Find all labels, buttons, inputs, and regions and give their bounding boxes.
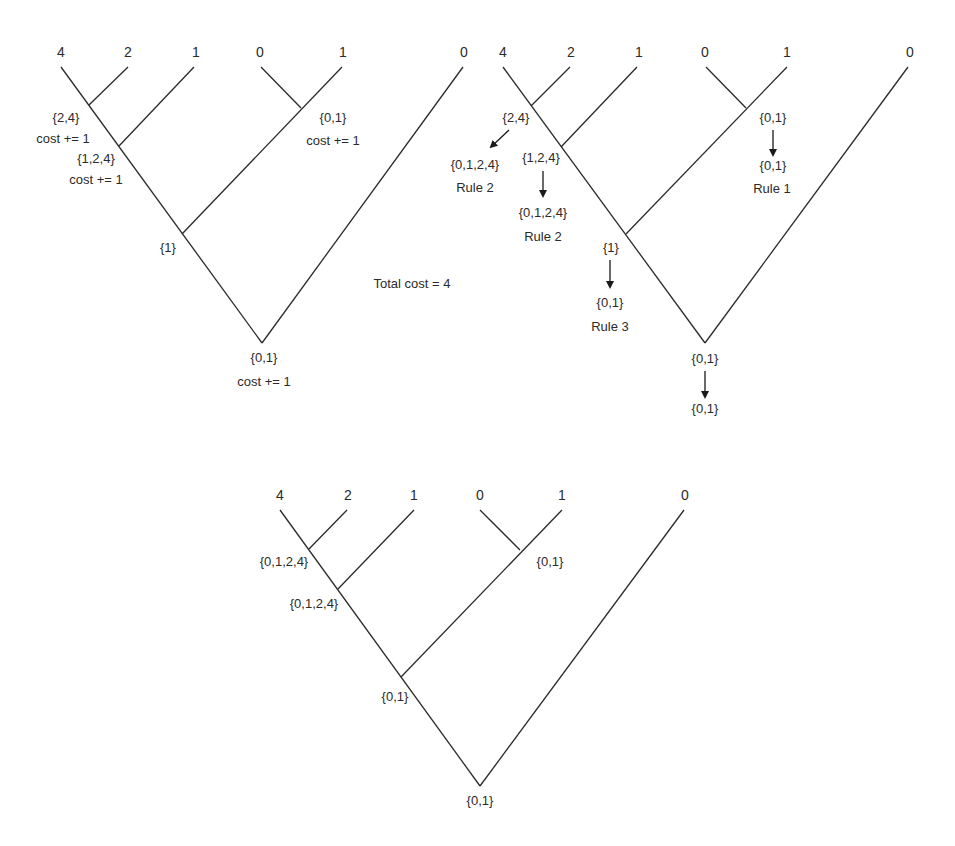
leaf-label: 2 [124,44,132,60]
leaf-label: 1 [783,44,791,60]
node-set-label: {1,2,4} [77,151,115,166]
rule-label: Rule 1 [753,181,791,196]
leaf-label: 0 [701,44,709,60]
leaf-label: 4 [276,487,284,503]
node-set-label: {1} [160,240,177,255]
rule-label: Rule 2 [524,229,562,244]
tree-edge [480,510,520,550]
node-set-label: {0,1} [692,351,719,366]
node-set-label: {0,1,2,4} [290,596,339,611]
tree-edge [280,510,480,786]
leaf-label: 2 [567,44,575,60]
node-set-label: {1,2,4} [522,150,560,165]
leaf-label: 0 [476,487,484,503]
node-cost-label: cost += 1 [306,133,359,148]
leaf-label: 4 [57,44,65,60]
total-cost-label: Total cost = 4 [374,276,451,291]
node-set-label: {2,4} [53,110,80,125]
parsimony-diagram: 4 2 1 0 1 0 {2,4} cost += 1 {1,2,4} cost… [0,0,955,846]
node-set-label: {0,1,2,4} [260,554,309,569]
node-cost-label: cost += 1 [36,131,89,146]
node-result-label: {0,1,2,4} [519,205,568,220]
tree-edge [561,67,637,147]
rule-label: Rule 3 [591,319,629,334]
node-set-label: {1} [603,240,620,255]
tree-edge [309,510,347,549]
tree-edge [531,67,570,106]
leaf-label: 4 [499,44,507,60]
node-set-label: {0,1} [320,110,347,125]
node-set-label: {0,1} [251,350,278,365]
node-cost-label: cost += 1 [237,374,290,389]
leaf-label: 1 [410,487,418,503]
leaf-label: 1 [635,44,643,60]
tree-edge [182,67,342,234]
leaf-label: 0 [681,487,689,503]
node-result-label: {0,1} [692,401,719,416]
tree-edge [261,67,301,108]
tree-edge [61,67,262,343]
node-cost-label: cost += 1 [69,172,122,187]
node-set-label: {0,1} [537,554,564,569]
leaf-label: 1 [339,44,347,60]
tree-edge [626,67,787,234]
node-set-label: {0,1} [760,110,787,125]
node-set-label: {0,1} [382,689,409,704]
arrow-icon [491,130,509,147]
node-result-label: {0,1} [597,295,624,310]
leaf-label: 0 [906,44,914,60]
tree-edge [706,67,746,108]
leaf-label: 0 [460,44,468,60]
leaf-label: 0 [256,44,264,60]
tree-top-down: 4 2 1 0 1 0 {2,4} {0,1,2,4} Rule 2 {1,2,… [451,44,914,416]
tree-edge [262,67,463,343]
tree-edge [119,67,194,146]
tree-edge [338,510,414,589]
tree-edge [401,510,562,677]
node-set-label: {0,1} [467,793,494,808]
tree-edge [480,510,684,786]
tree-edge [705,67,908,343]
tree-edge [89,67,128,105]
rule-label: Rule 2 [456,180,494,195]
tree-final: 4 2 1 0 1 0 {0,1,2,4} {0,1,2,4} {0,1} {0… [260,487,689,808]
tree-bottom-up: 4 2 1 0 1 0 {2,4} cost += 1 {1,2,4} cost… [36,44,468,389]
leaf-label: 1 [192,44,200,60]
node-result-label: {0,1} [760,158,787,173]
leaf-label: 2 [344,487,352,503]
node-result-label: {0,1,2,4} [451,157,500,172]
leaf-label: 1 [558,487,566,503]
node-set-label: {2,4} [503,110,530,125]
